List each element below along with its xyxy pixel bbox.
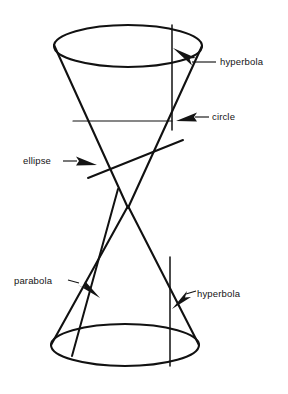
conic-sections-figure: hyperbola circle ellipse parabola hyperb… — [0, 0, 288, 394]
circle-leader-group — [176, 113, 209, 122]
upper-rim-ellipse — [54, 25, 202, 67]
ellipse-cut-line — [88, 140, 183, 178]
label-hyperbola-bottom: hyperbola — [197, 288, 241, 299]
parabola-leader-group — [68, 280, 100, 298]
label-ellipse: ellipse — [23, 155, 51, 166]
lower-rim-ellipse — [51, 324, 199, 366]
ellipse-arrowhead — [76, 157, 97, 166]
parabola-leader-line — [68, 280, 79, 283]
ellipse-leader-group — [63, 157, 97, 166]
label-parabola: parabola — [14, 275, 53, 286]
circle-arrowhead — [176, 113, 197, 122]
label-circle: circle — [212, 111, 235, 122]
upper-cone-right-slant — [128, 46, 202, 208]
lower-cone-group — [51, 206, 199, 366]
parabola-cut-line — [72, 189, 118, 356]
upper-cone-left-slant — [54, 45, 128, 208]
hyperbola-bottom-leader-line — [186, 291, 196, 294]
conic-sections-drawing: hyperbola circle ellipse parabola hyperb… — [0, 0, 288, 394]
label-hyperbola-top: hyperbola — [220, 56, 264, 67]
